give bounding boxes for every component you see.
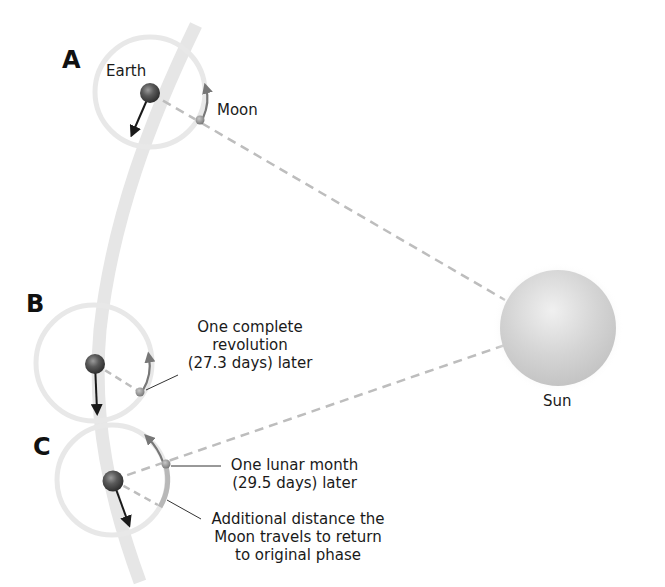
earth-label: Earth (106, 62, 146, 80)
additional-distance-arc (160, 466, 168, 507)
position-label-c: C (33, 433, 51, 461)
moon-a (196, 116, 205, 125)
revolution-label: One complete revolution (27.3 days) late… (180, 318, 320, 372)
sun-line-a (150, 93, 505, 300)
moon-label: Moon (217, 101, 258, 119)
additional-distance-label: Additional distance the Moon travels to … (198, 510, 398, 564)
position-label-a: A (62, 46, 81, 74)
earth-moon-sun-diagram (0, 0, 665, 587)
additional-line-2: Moon travels to return (198, 528, 398, 546)
moon-b (136, 388, 145, 397)
lunar-month-label: One lunar month (29.5 days) later (222, 456, 367, 492)
earth-c (103, 471, 124, 492)
sun-label: Sun (543, 392, 572, 410)
earth-b (85, 354, 105, 374)
leader-additional (167, 500, 201, 519)
position-c (57, 425, 221, 535)
additional-line-3: to original phase (198, 546, 398, 564)
revolution-line-3: (27.3 days) later (180, 354, 320, 372)
lunar-line-1: One lunar month (222, 456, 367, 474)
sun (500, 270, 616, 386)
revolution-line-2: revolution (180, 336, 320, 354)
earth-a (140, 83, 160, 103)
revolution-line-1: One complete (180, 318, 320, 336)
additional-line-1: Additional distance the (198, 510, 398, 528)
position-label-b: B (26, 290, 44, 318)
lunar-line-2: (29.5 days) later (222, 474, 367, 492)
moon-c (162, 460, 171, 469)
